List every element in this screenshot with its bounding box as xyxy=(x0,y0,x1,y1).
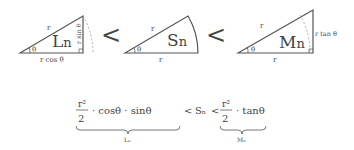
right-rest: · tanθ xyxy=(236,105,265,116)
base-label: r xyxy=(273,56,277,64)
radius-top-label: r xyxy=(151,25,155,33)
sector-figure: r θ r Sn xyxy=(125,16,198,64)
angle-label: θ xyxy=(137,46,141,54)
left-denominator: 2 xyxy=(78,113,84,124)
left-rest: · cosθ · sinθ xyxy=(92,105,151,116)
left-underbrace xyxy=(76,126,180,134)
lt-2: < xyxy=(211,105,219,116)
dotted-arc xyxy=(83,16,93,53)
area-label: Ln xyxy=(52,31,72,51)
right-underbrace xyxy=(220,126,266,134)
right-brace-label: Mₙ xyxy=(237,136,246,143)
right-numerator: r² xyxy=(222,99,230,109)
hyp-label: r xyxy=(47,24,51,32)
area-label: Mn xyxy=(279,32,305,52)
vertical-label: r sin θ xyxy=(75,23,83,44)
lt-1: < xyxy=(184,105,192,116)
radius-bottom-label: r xyxy=(159,56,163,64)
left-numerator: r² xyxy=(78,99,86,109)
sector xyxy=(125,16,198,53)
area-comparison-diagram: r θ r cos θ r sin θ Ln < r θ r Sn < r θ … xyxy=(0,0,354,150)
less-than-2: < xyxy=(206,21,226,49)
inner-triangle-figure: r θ r cos θ r sin θ Ln xyxy=(20,16,93,64)
less-than-1: < xyxy=(101,21,121,49)
left-brace-label: Lₙ xyxy=(124,136,131,143)
angle-label: θ xyxy=(32,46,36,54)
vertical-label: r tan θ xyxy=(315,30,337,38)
inequality-formula: r² 2 · cosθ · sinθ Lₙ < Sₙ < r² 2 · tanθ… xyxy=(76,99,266,143)
angle-arc xyxy=(29,48,30,53)
angle-arc xyxy=(134,48,135,53)
angle-label: θ xyxy=(251,46,255,54)
base-label: r cos θ xyxy=(40,56,64,64)
middle-sn: Sₙ xyxy=(195,105,206,116)
right-denominator: 2 xyxy=(222,113,228,124)
area-label: Sn xyxy=(167,30,188,50)
outer-triangle-figure: r θ r r tan θ Mn xyxy=(238,10,337,64)
hyp-label: r xyxy=(260,22,264,30)
